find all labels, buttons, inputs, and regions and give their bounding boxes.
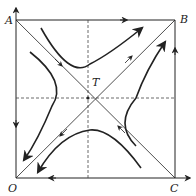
diagonal-arrow-out-lower-left (60, 129, 67, 136)
label-C: C (170, 183, 178, 194)
label-T: T (92, 77, 99, 88)
trajectory-top (41, 28, 142, 68)
saddle-point-T (86, 96, 89, 99)
phase-diagram: A B O C T (0, 0, 196, 196)
trajectory-left (24, 52, 57, 160)
trajectory-right-lower (125, 98, 136, 146)
diagonal-arrow-in-upper-left (55, 59, 62, 66)
phase-portrait-canvas (0, 0, 196, 196)
trajectory-right-upper (136, 42, 165, 98)
label-O: O (8, 183, 17, 194)
label-B: B (180, 14, 188, 25)
trajectory-bottom (38, 130, 141, 172)
diagonal-arrow-out-upper-right (125, 56, 132, 63)
label-A: A (5, 15, 13, 26)
